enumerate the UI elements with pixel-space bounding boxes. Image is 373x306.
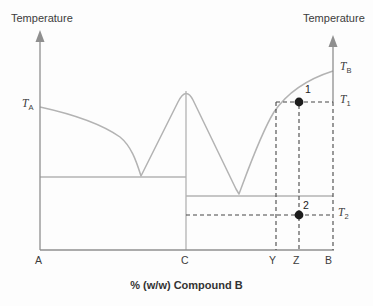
x-axis-title: % (w/w) Compound B	[0, 279, 373, 291]
t1-subscript: 1	[346, 99, 350, 108]
point-1-label: 1	[305, 84, 311, 95]
temperature-t1-label: T1	[340, 94, 351, 108]
phase-diagram-figure: Temperature Temperature TA TB T1 T2 1 2 …	[0, 0, 373, 306]
left-axis-title: Temperature	[11, 13, 73, 24]
ta-subscript: A	[28, 103, 33, 112]
x-tick-c: C	[181, 255, 189, 266]
t2-subscript: 2	[344, 212, 348, 221]
right-axis-arrow-icon	[329, 35, 338, 47]
x-tick-a: A	[35, 255, 42, 266]
point-2-marker	[295, 211, 304, 220]
temperature-ta-label: TA	[22, 98, 33, 112]
point-2-label: 2	[303, 200, 309, 211]
left-axis-arrow-icon	[36, 30, 45, 42]
temperature-tb-label: TB	[340, 61, 351, 75]
x-tick-b: B	[325, 255, 332, 266]
point-1-marker	[295, 98, 304, 107]
x-tick-z: Z	[293, 255, 299, 266]
tb-subscript: B	[346, 66, 351, 75]
temperature-t2-label: T2	[338, 207, 349, 221]
x-tick-y: Y	[269, 255, 276, 266]
right-axis-title: Temperature	[303, 13, 365, 24]
